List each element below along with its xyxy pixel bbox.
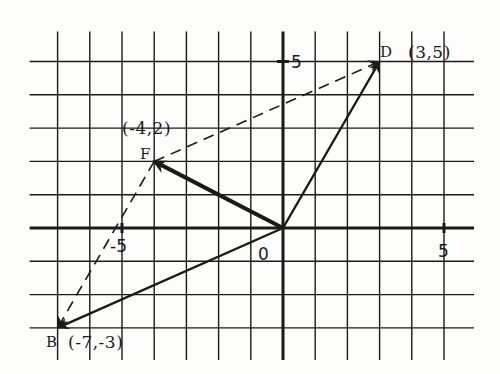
point-label-f: F: [140, 147, 150, 162]
x-tick-label-neg5: -5: [110, 238, 127, 255]
point-coord-d: (3,5): [408, 44, 451, 61]
vector-diagram: D (3,5) (-4,2) F B (-7,-3) 0 -5 5 5: [0, 0, 500, 374]
point-coord-b: (-7,-3): [68, 334, 123, 351]
vector-fd: [154, 62, 379, 162]
x-tick-label-5: 5: [438, 243, 449, 260]
point-coord-f: (-4,2): [122, 120, 171, 137]
vector-od: [283, 62, 380, 229]
origin-label: 0: [258, 246, 269, 263]
point-label-b: B: [46, 335, 57, 350]
vector-ob: [58, 228, 283, 328]
y-tick-label-5: 5: [291, 54, 302, 71]
point-label-d: D: [380, 45, 392, 60]
vector-fb: [58, 161, 155, 328]
